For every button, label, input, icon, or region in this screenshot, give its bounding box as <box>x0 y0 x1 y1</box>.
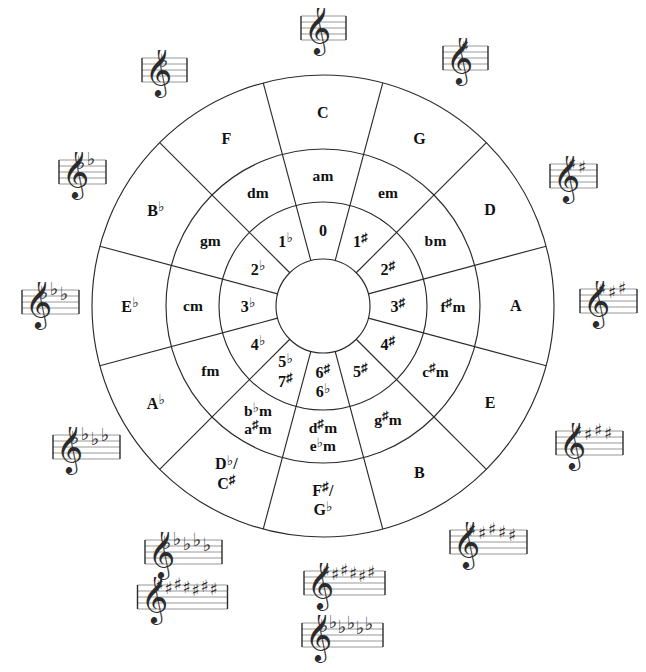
sector-divider-1 <box>356 143 486 273</box>
sharp-icon: ♯ <box>604 423 612 443</box>
svg-text:𝄞: 𝄞 <box>304 8 331 56</box>
treble-clef-icon: 𝄞 <box>304 8 331 56</box>
sharp-icon: ♯ <box>182 577 190 597</box>
sharp-icon: ♯ <box>468 522 476 540</box>
sharp-icon: ♯ <box>164 578 172 598</box>
sharp-icon: ♯ <box>461 38 469 56</box>
minor-key-csm[interactable]: c♯m <box>422 362 449 380</box>
flat-icon: ♭ <box>87 152 96 169</box>
key-signature-G[interactable]: 𝄞♯ <box>439 38 491 86</box>
major-key-B[interactable]: B <box>414 465 425 482</box>
accidental-count-2s[interactable]: 2♯ <box>380 259 395 279</box>
key-signature-F[interactable]: 𝄞♭ <box>138 50 190 98</box>
key-signature-Csharp[interactable]: 𝄞♯♯♯♯♯♯♯ <box>134 577 231 625</box>
circle-of-fifths-diagram: CGDAEBF♯/G♭D♭/C♯A♭E♭B♭Famembmf♯mc♯mg♯md♯… <box>0 0 646 672</box>
minor-key-cm[interactable]: cm <box>183 298 203 314</box>
key-signature-Bflat[interactable]: 𝄞♭♭ <box>55 152 109 200</box>
accidental-count-4s[interactable]: 4♯ <box>380 334 395 354</box>
accidental-count-5b-7s[interactable]: 5♭7♯ <box>278 351 293 390</box>
sector-divider-4 <box>356 339 486 469</box>
minor-key-gsm[interactable]: g♯m <box>374 410 402 428</box>
flat-icon: ♭ <box>71 427 80 448</box>
sharp-icon: ♯ <box>508 525 516 545</box>
flat-icon: ♭ <box>163 532 172 553</box>
major-key-Eb[interactable]: E♭ <box>121 296 138 315</box>
major-key-E[interactable]: E <box>485 394 496 411</box>
flat-icon: ♭ <box>365 615 374 634</box>
minor-key-bm[interactable]: bm <box>425 233 447 249</box>
accidental-count-6s-6b[interactable]: 6♯6♭ <box>316 362 331 401</box>
sharp-icon: ♯ <box>340 563 348 580</box>
flat-icon: ♭ <box>50 282 59 299</box>
minor-key-em[interactable]: em <box>378 185 398 201</box>
minor-key-bbm-asm[interactable]: b♭ma♯m <box>244 400 272 437</box>
sharp-icon: ♯ <box>584 424 592 444</box>
major-key-Bb[interactable]: B♭ <box>147 200 164 219</box>
flat-icon: ♭ <box>356 617 365 638</box>
key-signature-D[interactable]: 𝄞♯♯ <box>546 156 600 204</box>
sharp-icon: ♯ <box>498 522 506 542</box>
major-key-C[interactable]: C <box>317 105 329 122</box>
flat-icon: ♭ <box>160 50 169 71</box>
accidental-count-1s[interactable]: 1♯ <box>353 231 368 251</box>
minor-key-am[interactable]: am <box>312 168 333 184</box>
key-signature-B[interactable]: 𝄞♯♯♯♯♯ <box>446 522 530 570</box>
key-signature-Fsharp[interactable]: 𝄞♯♯♯♯♯♯ <box>300 563 388 611</box>
key-signature-C[interactable]: 𝄞 <box>297 8 349 56</box>
accidental-count-2b[interactable]: 2♭ <box>251 259 266 278</box>
sharp-icon: ♯ <box>331 564 339 584</box>
flat-icon: ♭ <box>347 615 356 633</box>
flat-icon: ♭ <box>203 534 212 555</box>
sharp-icon: ♯ <box>578 157 586 177</box>
accidental-count-5s[interactable]: 5♯ <box>353 361 368 381</box>
sharp-icon: ♯ <box>608 282 616 302</box>
major-key-A[interactable]: A <box>510 298 522 315</box>
key-signature-Eflat[interactable]: 𝄞♭♭♭ <box>18 282 82 330</box>
flat-icon: ♭ <box>320 615 329 636</box>
major-key-Ab[interactable]: A♭ <box>147 393 165 412</box>
flat-icon: ♭ <box>60 283 69 304</box>
sector-divider-10 <box>160 143 290 273</box>
flat-icon: ♭ <box>77 152 86 173</box>
accidental-count-1b[interactable]: 1♭ <box>278 231 293 250</box>
sharp-icon: ♯ <box>568 156 576 174</box>
minor-key-dm[interactable]: dm <box>247 185 269 201</box>
flat-icon: ♭ <box>183 533 192 554</box>
sharp-icon: ♯ <box>367 563 375 582</box>
sharp-icon: ♯ <box>191 580 199 600</box>
major-key-D[interactable]: D <box>484 201 496 218</box>
major-key-F[interactable]: F <box>222 130 232 147</box>
sharp-icon: ♯ <box>598 281 606 299</box>
flat-icon: ♭ <box>329 615 338 632</box>
key-signature-Aflat[interactable]: 𝄞♭♭♭♭ <box>49 427 123 475</box>
sharp-icon: ♯ <box>349 563 357 583</box>
ring-inner-hub <box>276 259 370 353</box>
accidental-count-3b[interactable]: 3♭ <box>241 296 256 315</box>
accidental-count-4b[interactable]: 4♭ <box>251 334 266 353</box>
flat-icon: ♭ <box>173 532 182 549</box>
flat-icon: ♭ <box>40 282 49 303</box>
flat-icon: ♭ <box>101 427 110 445</box>
flat-icon: ♭ <box>81 427 90 444</box>
flat-icon: ♭ <box>91 428 100 449</box>
major-key-G[interactable]: G <box>413 130 426 147</box>
major-key-Db-Cs[interactable]: D♭/C♯ <box>215 454 238 493</box>
key-signature-Gflat[interactable]: 𝄞♭♭♭♭♭♭ <box>298 615 386 663</box>
flat-icon: ♭ <box>338 616 347 637</box>
sharp-icon: ♯ <box>488 522 496 539</box>
minor-key-fsm[interactable]: f♯m <box>440 297 465 315</box>
accidental-count-3s[interactable]: 3♯ <box>391 296 406 316</box>
key-signature-A[interactable]: 𝄞♯♯♯ <box>576 281 640 329</box>
sharp-icon: ♯ <box>358 566 366 586</box>
key-signature-Dflat[interactable]: 𝄞♭♭♭♭♭ <box>141 532 225 580</box>
minor-key-gm[interactable]: gm <box>200 233 221 249</box>
sharp-icon: ♯ <box>618 281 626 298</box>
sharp-icon: ♯ <box>322 563 330 581</box>
accidental-count-0[interactable]: 0 <box>319 223 327 240</box>
key-signature-E[interactable]: 𝄞♯♯♯♯ <box>552 423 626 471</box>
sharp-icon: ♯ <box>574 423 582 441</box>
minor-key-dsm-ebm[interactable]: d♯me♭m <box>309 418 338 455</box>
major-key-Fs-Gb[interactable]: F♯/G♭ <box>312 480 333 519</box>
flat-icon: ♭ <box>193 532 202 550</box>
minor-key-fm[interactable]: fm <box>201 363 219 379</box>
